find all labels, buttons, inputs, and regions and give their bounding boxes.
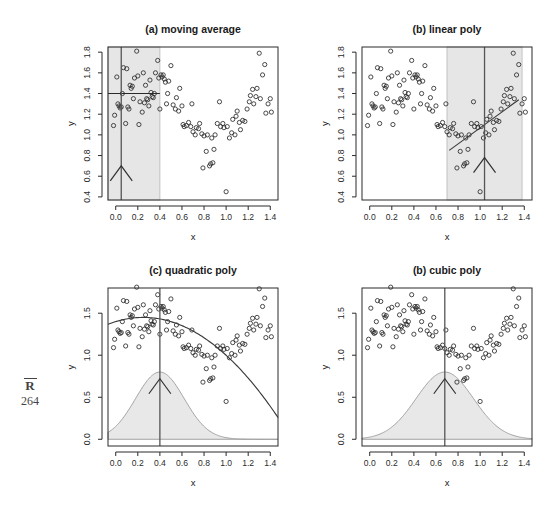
data-point [137, 345, 141, 349]
data-point [523, 335, 527, 339]
data-point [190, 102, 194, 106]
x-tick-label: 0.0 [110, 458, 122, 468]
data-point [512, 324, 516, 328]
y-tick-label: 1.4 [336, 87, 346, 99]
data-point [235, 109, 239, 113]
x-tick-label: 0.8 [198, 458, 210, 468]
data-point [263, 296, 267, 300]
data-point [488, 338, 492, 342]
data-point [169, 64, 173, 68]
data-point [234, 114, 238, 118]
data-point [264, 111, 268, 115]
data-point [401, 104, 405, 108]
data-point [369, 306, 373, 310]
data-point [391, 122, 395, 126]
x-tick-label: 1.0 [474, 212, 486, 222]
data-point [258, 324, 262, 328]
data-point [434, 330, 438, 334]
y-tick-label: 1.2 [82, 108, 92, 120]
data-point [392, 100, 396, 104]
data-point [245, 332, 249, 336]
data-point [432, 315, 436, 319]
data-point [434, 104, 438, 108]
panel-b: (b) linear poly0.00.20.40.60.81.01.21.4x… [319, 23, 532, 242]
data-point [148, 309, 152, 313]
y-tick-label: 0.0 [82, 433, 92, 445]
y-axis-label-b: y [319, 121, 330, 126]
data-point [522, 97, 526, 101]
margin-label-r: R [24, 378, 37, 393]
data-point [269, 335, 273, 339]
y-tick-label: 1.0 [82, 349, 92, 361]
x-axis-label-b: x [445, 231, 450, 242]
y-tick-label: 0.5 [82, 391, 92, 403]
data-point [212, 365, 216, 369]
x-tick-label: 0.6 [176, 212, 188, 222]
data-point [385, 324, 389, 328]
data-point [394, 110, 398, 114]
x-axis-label-d: x [445, 477, 450, 488]
x-tick-label: 0.4 [408, 212, 420, 222]
data-point [399, 97, 403, 101]
data-point [217, 100, 221, 104]
data-point [410, 293, 414, 297]
x-tick-label: 0.8 [198, 212, 210, 222]
y-tick-label: 1.8 [336, 46, 346, 58]
page-number: 264 [8, 394, 52, 409]
data-point [425, 103, 429, 107]
data-point [171, 103, 175, 107]
data-point [402, 309, 406, 313]
data-point [367, 337, 371, 341]
y-tick-label: 0.5 [336, 391, 346, 403]
data-point [478, 399, 482, 403]
x-tick-label: 0.0 [364, 212, 376, 222]
y-tick-label: 1.5 [336, 307, 346, 319]
panels-svg: (a) moving average0.00.20.40.60.81.01.21… [0, 0, 545, 515]
data-point [443, 125, 447, 129]
data-point [124, 344, 128, 348]
x-tick-label: 1.4 [518, 212, 530, 222]
x-tick-label: 0.2 [132, 458, 144, 468]
data-point [131, 324, 135, 328]
window-band-a [108, 47, 160, 200]
data-point [522, 324, 526, 328]
data-point [189, 346, 193, 350]
data-point [164, 102, 168, 106]
data-point [397, 313, 401, 317]
data-point [397, 83, 401, 87]
kernel-weight-curve-c [108, 372, 278, 439]
data-point [198, 344, 202, 348]
x-tick-label: 1.2 [242, 212, 254, 222]
x-tick-label: 0.4 [408, 458, 420, 468]
data-point [471, 326, 475, 330]
data-point [138, 326, 142, 330]
scatter-points-c [111, 285, 273, 404]
data-point [505, 316, 509, 320]
panel-a: (a) moving average0.00.20.40.60.81.01.21… [65, 23, 278, 242]
y-tick-label: 0.4 [336, 191, 346, 203]
data-point [251, 87, 255, 91]
x-tick-label: 0.6 [176, 458, 188, 468]
x-tick-label: 0.2 [386, 212, 398, 222]
data-point [452, 344, 456, 348]
data-point [201, 380, 205, 384]
data-point [492, 349, 496, 353]
data-point [432, 86, 436, 90]
x-axis-label-c: x [191, 477, 196, 488]
data-point [389, 285, 393, 289]
figure-canvas: R 264 (a) moving average0.00.20.40.60.81… [0, 0, 545, 515]
panel-c: (c) quadratic poly0.00.20.40.60.81.01.21… [65, 264, 278, 488]
y-tick-label: 1.6 [82, 67, 92, 79]
x-tick-label: 0.2 [386, 458, 398, 468]
data-point [143, 313, 147, 317]
data-point [180, 330, 184, 334]
data-point [489, 334, 493, 338]
data-point [402, 78, 406, 82]
data-point [113, 337, 117, 341]
data-point [481, 356, 485, 360]
x-tick-label: 1.2 [496, 212, 508, 222]
data-point [367, 113, 371, 117]
data-point [266, 102, 270, 106]
x-tick-label: 1.4 [264, 212, 276, 222]
data-point [266, 328, 270, 332]
